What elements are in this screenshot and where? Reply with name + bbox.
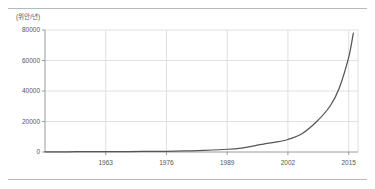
x-tick-label: 2015 [341, 159, 356, 166]
x-tick-label: 1963 [98, 159, 113, 166]
y-tick-label: 40000 [22, 87, 40, 94]
x-tick-label: 1989 [220, 159, 235, 166]
series-line [45, 33, 353, 152]
x-tick-label: 2002 [281, 159, 296, 166]
chart-figure: (위안/년) 020000400006000080000196319761989… [0, 0, 375, 189]
y-tick-label: 60000 [22, 57, 40, 64]
y-tick-label: 20000 [22, 118, 40, 125]
y-tick-label: 0 [36, 148, 40, 155]
x-tick-label: 1976 [159, 159, 174, 166]
y-tick-label: 80000 [22, 26, 40, 33]
line-chart-plot: 0200004000060000800001963197619892002201… [0, 0, 375, 189]
